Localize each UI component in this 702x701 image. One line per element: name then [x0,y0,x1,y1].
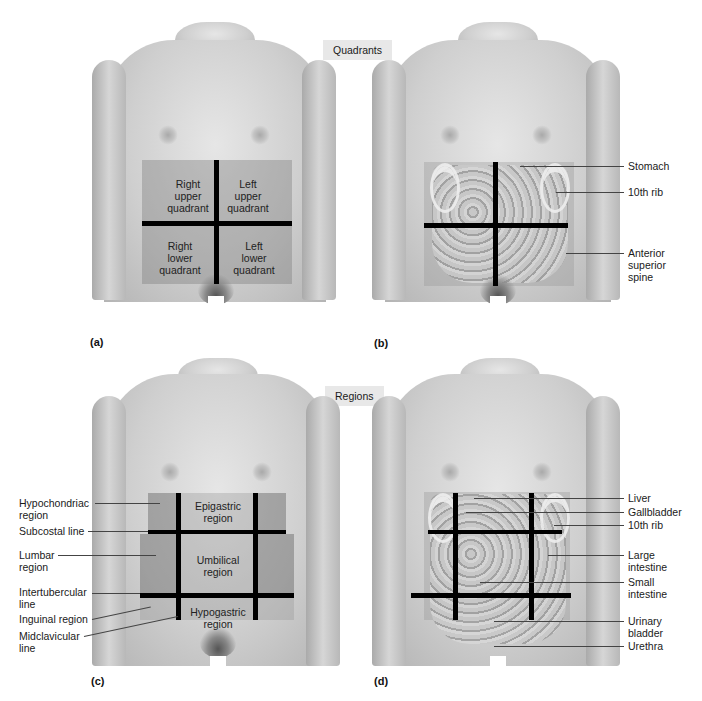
ribs-right [540,493,570,543]
callout-urinary-bladder: Urinary bladder [628,615,663,639]
right-arm [586,396,620,666]
subcostal-line [428,530,562,534]
callout-liver: Liver [628,492,651,504]
callout-urethra: Urethra [628,640,663,652]
panel-d-regions-organs: Liver Gallbladder 10th rib Large intesti… [0,0,702,701]
breast-left [440,462,460,482]
breast-right [532,462,552,482]
callout-10th-rib: 10th rib [628,519,663,531]
panel-letter-d: (d) [374,675,388,687]
left-arm [372,396,406,666]
callout-gallbladder: Gallbladder [628,506,682,518]
callout-large-intestine: Large intestine [628,549,667,573]
intertubercular-line [411,593,571,598]
callout-small-intestine: Small intestine [628,576,667,600]
midclavicular-line-right [453,493,458,620]
